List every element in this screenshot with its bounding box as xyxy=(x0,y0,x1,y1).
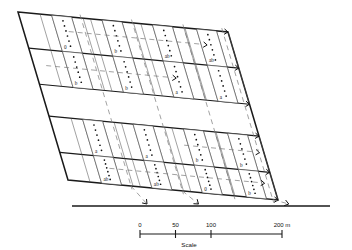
plot-dot xyxy=(219,75,221,77)
plot-label: b xyxy=(114,48,117,54)
plot-cell: 0 xyxy=(52,15,83,53)
plot-dot xyxy=(248,173,250,175)
plot-dot xyxy=(209,184,211,186)
plot-dot xyxy=(241,148,243,150)
plot-dot xyxy=(181,91,183,93)
flow-dashed-line-4 xyxy=(109,168,260,182)
plot-dot xyxy=(74,61,76,63)
plot-dot xyxy=(109,179,111,181)
plot-cell: ab xyxy=(197,29,228,67)
plot-dot xyxy=(177,76,179,78)
plot-dot xyxy=(210,44,212,46)
plot-box xyxy=(183,129,214,167)
plot-dot xyxy=(65,30,67,32)
plot-dot xyxy=(160,183,162,185)
plot-label: ab xyxy=(209,57,214,63)
plot-dot xyxy=(240,143,242,145)
plot-box xyxy=(207,65,238,103)
plot-label: b xyxy=(125,85,128,91)
plot-box xyxy=(133,124,164,162)
strip-guide-line xyxy=(239,68,250,104)
plot-dot xyxy=(128,76,130,78)
plot-dot xyxy=(208,180,210,182)
plot-label: b xyxy=(75,80,78,86)
plot-dot xyxy=(215,59,217,61)
plot-box xyxy=(238,169,266,199)
plot-label: 0 xyxy=(64,44,67,50)
plot-dot xyxy=(170,55,172,57)
plot-label: ab xyxy=(103,176,108,182)
plot-cell: 0 xyxy=(194,165,222,195)
scale-caption: Scale xyxy=(181,241,197,248)
strip-guide-line xyxy=(71,118,82,154)
strip-guide-line xyxy=(259,136,270,172)
plot-dot xyxy=(204,169,206,171)
scale-bar: 050100200 mScale xyxy=(138,222,290,248)
plot-dot xyxy=(155,168,157,170)
plot-cell: ab xyxy=(93,155,121,185)
strip-guide-line xyxy=(172,128,183,164)
strip-guide-line xyxy=(144,59,155,95)
plot-dot xyxy=(144,129,146,131)
plot-dot xyxy=(218,70,220,72)
plot-dot xyxy=(210,188,212,190)
plot-dot xyxy=(213,54,215,56)
plot-dot xyxy=(145,134,147,136)
strip-guide-line xyxy=(183,164,191,192)
plot-dot xyxy=(154,164,156,166)
strip-guide-line xyxy=(216,132,227,168)
plot-dot xyxy=(70,45,72,47)
strip-guide-line xyxy=(94,54,105,90)
field-layout-figure: 0bababbbaaaabbabab0b050100200 mScale xyxy=(0,0,352,250)
plot-dot xyxy=(150,149,152,151)
plot-dot xyxy=(76,66,78,68)
plot-dot xyxy=(250,177,252,179)
strip-guide-line xyxy=(227,168,235,196)
plot-dot xyxy=(180,86,182,88)
plot-box xyxy=(62,51,93,89)
strip-guide-line xyxy=(90,19,101,55)
plot-dot xyxy=(108,175,110,177)
strip-guide-line xyxy=(196,64,207,100)
plot-dot xyxy=(221,80,223,82)
plot-dot xyxy=(197,144,199,146)
plot-dot xyxy=(174,66,176,68)
plot-dot xyxy=(131,86,133,88)
plot-dot xyxy=(104,159,106,161)
strip-guide-line xyxy=(270,172,278,200)
plot-dot xyxy=(68,40,70,42)
plot-label: b xyxy=(240,162,243,168)
plot-dot xyxy=(113,25,115,27)
plot-dot xyxy=(67,35,69,37)
plot-dot xyxy=(129,81,131,83)
plot-dot xyxy=(169,50,171,52)
plot-label: ab xyxy=(165,53,170,59)
plot-label: 0 xyxy=(204,186,207,192)
strip-guide-line xyxy=(101,55,112,91)
plot-dot xyxy=(243,153,245,155)
plot-dot xyxy=(125,66,127,68)
scale-tick-label: 200 m xyxy=(274,222,291,228)
plot-dot xyxy=(246,163,248,165)
plot-dot xyxy=(105,163,107,165)
plot-dot xyxy=(126,71,128,73)
scale-tick-label: 50 xyxy=(172,222,179,228)
plot-dot xyxy=(222,85,224,87)
plot-cell: ab xyxy=(144,160,172,190)
plot-dot xyxy=(101,149,103,151)
plot-dot xyxy=(98,139,100,141)
strip-guide-line xyxy=(152,60,163,96)
plot-dot xyxy=(96,134,98,136)
plot-dot xyxy=(164,35,166,37)
plot-cell: b xyxy=(102,20,133,58)
plot-dot xyxy=(207,34,209,36)
scale-tick-label: 0 xyxy=(138,222,142,228)
plot-dot xyxy=(252,185,254,187)
plot-dot xyxy=(114,30,116,32)
strip-guide-line xyxy=(134,23,145,59)
flow-dashed-line-2 xyxy=(46,66,172,78)
plot-label: b xyxy=(196,157,199,163)
plot-cell: b xyxy=(228,133,259,171)
plot-dot xyxy=(151,154,153,156)
plot-dot xyxy=(95,129,97,131)
